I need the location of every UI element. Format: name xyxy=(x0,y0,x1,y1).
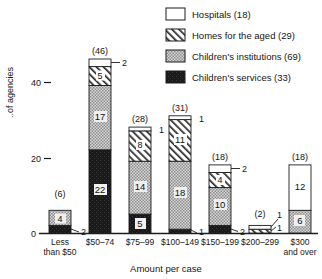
x-label-300-and-over-line2: and over xyxy=(283,247,316,257)
bar-segment-services-150-199 xyxy=(209,225,231,233)
bar-segment-hospitals-150-199 xyxy=(209,165,231,173)
callout-value-hospitals-100-149: 1 xyxy=(199,114,204,124)
legend-swatch-childrens-services xyxy=(166,71,185,83)
bar-segment-hospitals-100-149 xyxy=(169,116,191,120)
y-tick-label-20: 20 xyxy=(31,154,41,164)
callout-value-services-100-149: 1 xyxy=(199,227,204,237)
legend-label-hospitals: Hospitals (18) xyxy=(192,9,251,20)
legend-swatch-childrens-institutions xyxy=(166,50,185,62)
bar-segment-homes-200-299 xyxy=(249,229,271,233)
bar-segment-hospitals-50-74 xyxy=(89,59,111,67)
bar-value-services-50-74: 22 xyxy=(95,184,106,195)
bar-segment-hospitals-200-299 xyxy=(249,225,271,229)
bar-value-homes-75-99: 8 xyxy=(137,140,142,150)
x-label-less-than-50-line2: than $50 xyxy=(43,247,76,257)
callout-value-services-150-199: 2 xyxy=(240,227,245,237)
x-label-50-74: $50–74 xyxy=(86,237,115,247)
legend-item-hospitals[interactable]: Hospitals (18) xyxy=(166,8,251,20)
bar-segment-services-100-149 xyxy=(169,229,191,233)
bar-total-label-300-and-over: (18) xyxy=(292,152,308,162)
y-tick-label-40: 40 xyxy=(31,78,41,88)
x-label-200-299: $200–299 xyxy=(241,237,279,247)
bar-value-institutions-less-than-50: 4 xyxy=(57,214,62,224)
x-label-300-and-over-line1: $300 xyxy=(291,237,310,247)
bar-segment-services-less-than-50 xyxy=(49,225,71,233)
bar-segment-hospitals-75-99 xyxy=(129,127,151,131)
bar-value-institutions-100-149: 18 xyxy=(175,187,186,198)
x-label-150-199: $150–199 xyxy=(201,237,239,247)
bar-total-label-75-99: (28) xyxy=(132,114,148,124)
bar-total-label-less-than-50: (6) xyxy=(55,189,66,199)
bar-value-institutions-150-199: 10 xyxy=(215,199,226,210)
callout-value-hospitals-150-199: 2 xyxy=(242,164,247,174)
callout-value-hospitals-75-99: 1 xyxy=(159,125,164,135)
bar-total-label-100-149: (31) xyxy=(172,103,188,113)
bar-total-label-200-299: (2) xyxy=(255,209,266,219)
bar-total-label-150-199: (18) xyxy=(212,152,228,162)
callout-value-services-less-than-50: 2 xyxy=(81,227,86,237)
x-label-75-99: $75–99 xyxy=(126,237,155,247)
callout-value-homes-200-299: 1 xyxy=(277,223,282,233)
x-axis-title: Amount per case xyxy=(130,263,202,274)
legend-item-homes-for-the-aged[interactable]: Homes for the aged (29) xyxy=(166,29,295,41)
callout-value-hospitals-200-299: 1 xyxy=(277,210,282,220)
legend-item-childrens-services[interactable]: Children's services (33) xyxy=(166,71,291,83)
chart-container: Hospitals (18) Homes for the aged (29) C… xyxy=(0,0,322,279)
bar-value-institutions-75-99: 14 xyxy=(135,181,146,192)
y-axis-title: ..of agencies xyxy=(5,66,15,118)
stacked-bar-chart: Hospitals (18) Homes for the aged (29) C… xyxy=(0,0,322,279)
bar-value-hospitals-300-and-over: 12 xyxy=(295,181,306,192)
callout-value-hospitals-50-74: 2 xyxy=(122,58,127,68)
bar-value-institutions-300-and-over: 6 xyxy=(297,215,302,226)
bar-value-services-75-99: 5 xyxy=(137,218,142,229)
legend-label-childrens-institutions: Children's institutions (69) xyxy=(192,51,301,62)
legend-swatch-hospitals xyxy=(166,8,185,20)
x-label-less-than-50-line1: Less xyxy=(51,237,69,247)
bar-value-homes-50-74: 5 xyxy=(97,71,102,81)
legend-label-homes-for-the-aged: Homes for the aged (29) xyxy=(192,30,295,41)
y-tick-label-0: 0 xyxy=(31,229,36,239)
bar-value-institutions-50-74: 17 xyxy=(95,111,106,122)
bar-value-homes-100-149: 11 xyxy=(175,134,185,145)
x-label-100-149: $100–149 xyxy=(161,237,199,247)
legend-swatch-homes-for-the-aged xyxy=(166,29,185,41)
bar-value-homes-150-199: 4 xyxy=(217,175,222,185)
legend-label-childrens-services: Children's services (33) xyxy=(192,72,291,83)
bar-total-label-50-74: (46) xyxy=(92,46,108,56)
